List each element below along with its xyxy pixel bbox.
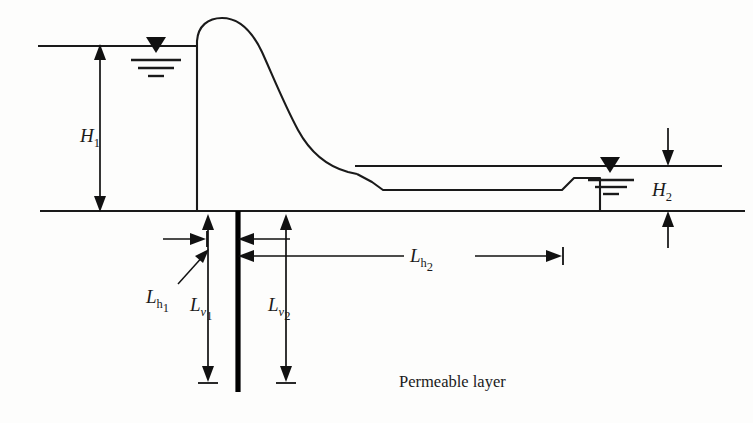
h2-label: H2 <box>651 179 672 204</box>
lv1-arrowhead-top <box>202 214 214 230</box>
permeable-layer-label: Permeable layer <box>399 372 506 391</box>
lh1-label: Lh1 <box>145 286 169 315</box>
lh2-label: Lh2 <box>409 245 433 274</box>
lv1-label-base: L <box>189 294 201 315</box>
spillway-seepage-diagram: H1 H2 Lh1 Lh2 <box>0 0 753 423</box>
h2-label-sub: 2 <box>666 190 672 204</box>
h1-label-sub: 1 <box>94 136 100 150</box>
lh2-label-base: L <box>409 245 421 266</box>
h1-label-base: H <box>79 125 95 146</box>
lh2-label-subsub: 2 <box>427 260 433 274</box>
upstream-water-table-triangle-icon <box>146 37 166 53</box>
diagram-canvas: H1 H2 Lh1 Lh2 <box>0 0 753 423</box>
lh1-label-base: L <box>145 286 157 307</box>
apron-underside-and-end-step <box>357 174 600 211</box>
h2-arrowhead-top <box>662 150 674 166</box>
h1-label: H1 <box>79 125 100 150</box>
lv2-label: Lv2 <box>267 294 290 323</box>
lv1-label-subsub: 1 <box>206 309 212 323</box>
h2-label-base: H <box>651 179 667 200</box>
lv1-arrowhead-bottom <box>202 366 214 382</box>
lh1-arrowhead-right <box>190 233 206 245</box>
lv2-label-subsub: 2 <box>284 309 290 323</box>
lv2-arrowhead-bottom <box>280 366 292 382</box>
downstream-water-table-triangle-icon <box>600 157 620 173</box>
lh2-arrowhead-right <box>546 250 562 262</box>
lv1-label: Lv1 <box>189 294 212 323</box>
dam-crest-and-downstream-face <box>197 18 357 174</box>
lh1-leader-arrowhead <box>195 249 209 263</box>
lv2-arrowhead-top <box>280 214 292 230</box>
h2-arrowhead-bottom <box>662 211 674 227</box>
lv2-label-base: L <box>267 294 279 315</box>
lh1-label-subsub: 1 <box>163 301 169 315</box>
h1-arrowhead-bottom <box>94 196 106 212</box>
